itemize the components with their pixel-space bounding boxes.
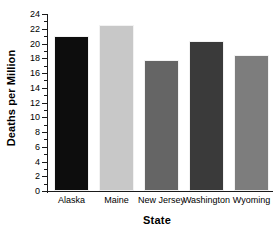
bar (189, 41, 224, 191)
bar (234, 55, 269, 191)
y-tick-label: 2 (20, 172, 40, 181)
y-tick-label: 24 (20, 10, 40, 19)
y-tick-label: 8 (20, 128, 40, 137)
y-tick-label: 22 (20, 25, 40, 34)
y-tick-label: 12 (20, 99, 40, 108)
plot-area (47, 14, 272, 192)
y-tick-label: 18 (20, 54, 40, 63)
x-tick-label: Wyoming (223, 195, 278, 206)
bar (99, 25, 134, 191)
y-tick-label: 6 (20, 143, 40, 152)
y-tick-label: 10 (20, 113, 40, 122)
y-tick-label: 4 (20, 158, 40, 167)
y-tick-label: 0 (20, 187, 40, 196)
bars-layer (47, 14, 272, 192)
y-tick-label: 20 (20, 40, 40, 49)
x-axis-title: State (41, 214, 273, 226)
y-tick-label: 16 (20, 69, 40, 78)
bar (54, 36, 89, 191)
y-axis-title-text: Deaths per Million (5, 50, 17, 147)
bar-chart: Deaths per Million 242220181614121086420… (0, 0, 277, 237)
y-axis-title: Deaths per Million (0, 0, 22, 196)
y-axis-tick-labels: 242220181614121086420 (20, 14, 40, 192)
y-tick-label: 14 (20, 84, 40, 93)
bar (144, 60, 179, 191)
x-axis-tick-labels: AlaskaMaineNew JerseyWashingtonWyoming (41, 195, 277, 209)
